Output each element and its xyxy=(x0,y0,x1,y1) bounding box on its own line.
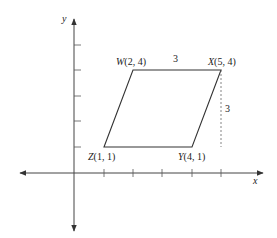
vertex-label-z: Z(1, 1) xyxy=(88,151,115,163)
vertex-label-y: Y(4, 1) xyxy=(178,151,205,163)
vertex-label-w: W(2, 4) xyxy=(116,56,146,68)
coordinate-diagram: x y W(2, 4) X(5, 4) Y(4, 1) Z(1, 1) 3 3 xyxy=(0,0,277,238)
height-length-label: 3 xyxy=(225,103,230,114)
top-side-length-label: 3 xyxy=(173,53,178,64)
parallelogram-wxyz xyxy=(104,70,221,147)
x-axis-label: x xyxy=(252,175,258,186)
y-axis-label: y xyxy=(61,13,67,24)
y-axis-ticks xyxy=(74,45,81,147)
vertex-label-x: X(5, 4) xyxy=(207,56,236,68)
